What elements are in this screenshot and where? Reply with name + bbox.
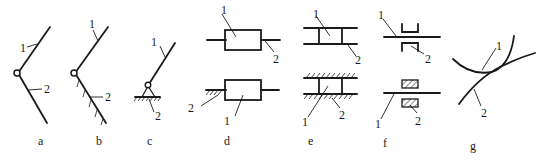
- panel-c: 1 2 c: [134, 35, 175, 148]
- label-1: 1: [378, 8, 384, 22]
- panel-e: 1 2: [302, 7, 361, 148]
- label-2: 2: [355, 53, 361, 67]
- leader-1: [93, 30, 98, 41]
- bearing-lower: [402, 43, 418, 51]
- caption-c: c: [147, 134, 152, 148]
- leader-1: [381, 94, 394, 119]
- panel-b: 1 2 b: [71, 17, 111, 148]
- label-2: 2: [425, 52, 431, 66]
- label-2: 2: [105, 90, 111, 104]
- panel-g: 1 2 g: [453, 36, 535, 153]
- link-2: [18, 73, 47, 123]
- caption-b: b: [96, 134, 102, 148]
- leader-1: [160, 46, 165, 57]
- caption-g: g: [470, 139, 476, 153]
- curve-2: [459, 53, 535, 104]
- link-1: [149, 43, 175, 84]
- hinge-icon: [71, 70, 77, 76]
- label-2: 2: [339, 108, 345, 122]
- leader-1: [383, 19, 396, 36]
- label-2: 2: [155, 109, 161, 123]
- leader-2: [149, 99, 154, 112]
- leader-2: [28, 89, 42, 90]
- panel-d: 1 2 2 1 d: [188, 3, 280, 148]
- leader-1: [482, 48, 496, 70]
- leader-1: [308, 86, 328, 117]
- label-2: 2: [415, 114, 421, 128]
- hinge-icon: [14, 70, 20, 76]
- slider-block-1: [225, 30, 261, 50]
- label-1: 1: [313, 7, 319, 21]
- fixed-bearing-lower: [402, 99, 418, 107]
- label-1: 1: [221, 3, 227, 17]
- label-1: 1: [89, 17, 95, 31]
- leader-2: [265, 41, 274, 52]
- panel-f: 1 2 1 2 f: [375, 8, 440, 150]
- label-2: 2: [481, 106, 487, 120]
- label-1: 1: [375, 117, 381, 131]
- bearing-upper: [402, 24, 418, 32]
- caption-a: a: [38, 134, 44, 148]
- fixed-link-2: [75, 73, 106, 123]
- caption-d: d: [224, 134, 230, 148]
- hinge-icon: [145, 82, 151, 88]
- fixed-bearing-upper: [402, 80, 418, 88]
- leader-2: [474, 89, 481, 106]
- ground-hatch-icon: [77, 80, 103, 125]
- caption-e: e: [308, 134, 313, 148]
- leader-1: [235, 95, 243, 116]
- label-1: 1: [224, 114, 230, 128]
- slider-block-2: [225, 80, 261, 100]
- link-1: [75, 27, 108, 73]
- label-2: 2: [273, 52, 279, 66]
- label-2: 2: [44, 82, 50, 96]
- label-1: 1: [20, 41, 26, 55]
- panel-a: 1 2 a: [14, 27, 50, 148]
- label-2: 2: [188, 101, 194, 115]
- label-1: 1: [151, 35, 157, 49]
- label-1: 1: [302, 115, 308, 129]
- leader-2: [201, 95, 218, 106]
- leader-2: [332, 98, 340, 108]
- label-1: 1: [496, 39, 502, 53]
- caption-f: f: [383, 136, 387, 150]
